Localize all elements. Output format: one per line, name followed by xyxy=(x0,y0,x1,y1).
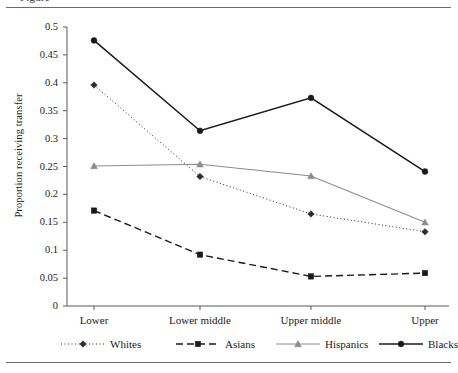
chart-legend: WhitesAsiansHispanicsBlacks xyxy=(60,334,450,354)
series-blacks xyxy=(91,37,428,174)
legend-item-blacks[interactable]: Blacks xyxy=(378,334,458,354)
data-point-marker xyxy=(91,82,98,89)
legend-swatch-square-icon xyxy=(175,337,221,351)
data-point-marker xyxy=(91,208,96,213)
legend-swatch-circle-icon xyxy=(378,337,424,351)
series-hispanics xyxy=(91,161,429,225)
series-line xyxy=(94,40,425,171)
data-point-marker xyxy=(422,219,429,225)
series-line xyxy=(94,164,425,222)
data-point-marker xyxy=(308,274,313,279)
series-asians xyxy=(91,208,427,279)
figure-bottom-rule xyxy=(6,362,451,363)
legend-label: Hispanics xyxy=(325,339,368,350)
legend-item-hispanics[interactable]: Hispanics xyxy=(275,334,368,354)
legend-item-asians[interactable]: Asians xyxy=(175,334,255,354)
data-point-marker xyxy=(80,341,87,348)
data-point-marker xyxy=(197,128,203,134)
data-point-marker xyxy=(308,95,314,101)
series-line xyxy=(94,85,425,232)
data-point-marker xyxy=(91,37,97,43)
legend-item-whites[interactable]: Whites xyxy=(60,334,141,354)
data-point-marker xyxy=(422,169,428,175)
legend-swatch-triangle-icon xyxy=(275,337,321,351)
data-point-marker xyxy=(422,270,427,275)
legend-label: Blacks xyxy=(428,339,458,350)
data-point-marker xyxy=(195,341,200,346)
data-point-marker xyxy=(197,252,202,257)
data-point-marker xyxy=(398,341,404,347)
data-point-marker xyxy=(308,211,315,218)
legend-label: Whites xyxy=(110,339,141,350)
series-line xyxy=(94,211,425,277)
legend-swatch-diamond-icon xyxy=(60,337,106,351)
data-point-marker xyxy=(422,228,429,235)
legend-label: Asians xyxy=(225,339,255,350)
series-whites xyxy=(91,82,429,235)
